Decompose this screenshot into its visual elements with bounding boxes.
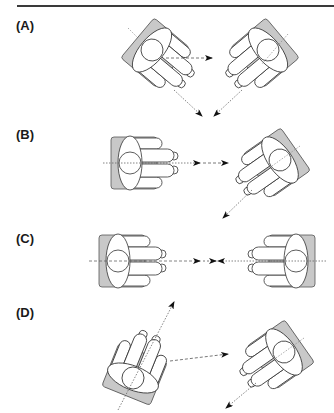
gaze-arrow (223, 190, 252, 218)
panel-c (89, 234, 326, 288)
panel-a (120, 17, 300, 116)
gaze-arrow (170, 354, 228, 361)
person-d-left (101, 323, 176, 405)
person-a-left (120, 17, 206, 101)
panel-d (101, 302, 315, 410)
person-b-right (225, 127, 311, 210)
panel-b (103, 127, 311, 218)
seating-diagram (0, 0, 334, 413)
person-d-right (229, 319, 315, 402)
gaze-arrow (214, 90, 242, 116)
person-a-right (214, 17, 300, 101)
gaze-arrow (174, 90, 202, 116)
